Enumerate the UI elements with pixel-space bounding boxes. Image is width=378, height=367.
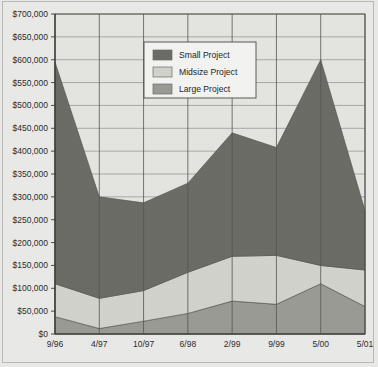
y-tick-label: $50,000	[17, 306, 48, 316]
y-tick-label: $600,000	[13, 55, 49, 65]
x-tick-label: 10/97	[133, 339, 155, 349]
legend-swatch-large-project	[153, 84, 172, 94]
y-tick-label: $200,000	[13, 238, 49, 248]
chart-legend: Small ProjectMidsize ProjectLarge Projec…	[144, 42, 256, 98]
y-tick-label: $650,000	[13, 32, 49, 42]
legend-swatch-small-project	[153, 50, 172, 60]
y-tick-label: $100,000	[13, 283, 49, 293]
y-tick-label: $0	[39, 329, 49, 339]
y-tick-label: $550,000	[13, 78, 49, 88]
legend-label-small-project: Small Project	[179, 50, 230, 60]
x-tick-label: 9/99	[268, 339, 285, 349]
y-tick-label: $250,000	[13, 215, 49, 225]
y-tick-label: $150,000	[13, 260, 49, 270]
y-tick-label: $700,000	[13, 9, 49, 19]
x-tick-label: 9/96	[47, 339, 64, 349]
legend-swatch-midsize-project	[153, 67, 172, 77]
y-axis-ticks: $700,000$650,000$600,000$550,000$500,000…	[13, 9, 55, 339]
chart-figure: $700,000$650,000$600,000$550,000$500,000…	[0, 0, 378, 367]
y-tick-label: $350,000	[13, 169, 49, 179]
stacked-area-chart: $700,000$650,000$600,000$550,000$500,000…	[0, 0, 378, 367]
x-tick-label: 5/01	[357, 339, 374, 349]
x-tick-label: 6/98	[180, 339, 197, 349]
legend-label-midsize-project: Midsize Project	[179, 67, 238, 77]
y-tick-label: $300,000	[13, 192, 49, 202]
legend-label-large-project: Large Project	[179, 84, 231, 94]
x-tick-label: 2/99	[224, 339, 241, 349]
y-tick-label: $500,000	[13, 100, 49, 110]
y-tick-label: $400,000	[13, 146, 49, 156]
x-axis-ticks: 9/964/9710/976/982/999/995/005/01	[47, 339, 374, 349]
x-tick-label: 4/97	[91, 339, 108, 349]
x-tick-label: 5/00	[312, 339, 329, 349]
y-tick-label: $450,000	[13, 123, 49, 133]
